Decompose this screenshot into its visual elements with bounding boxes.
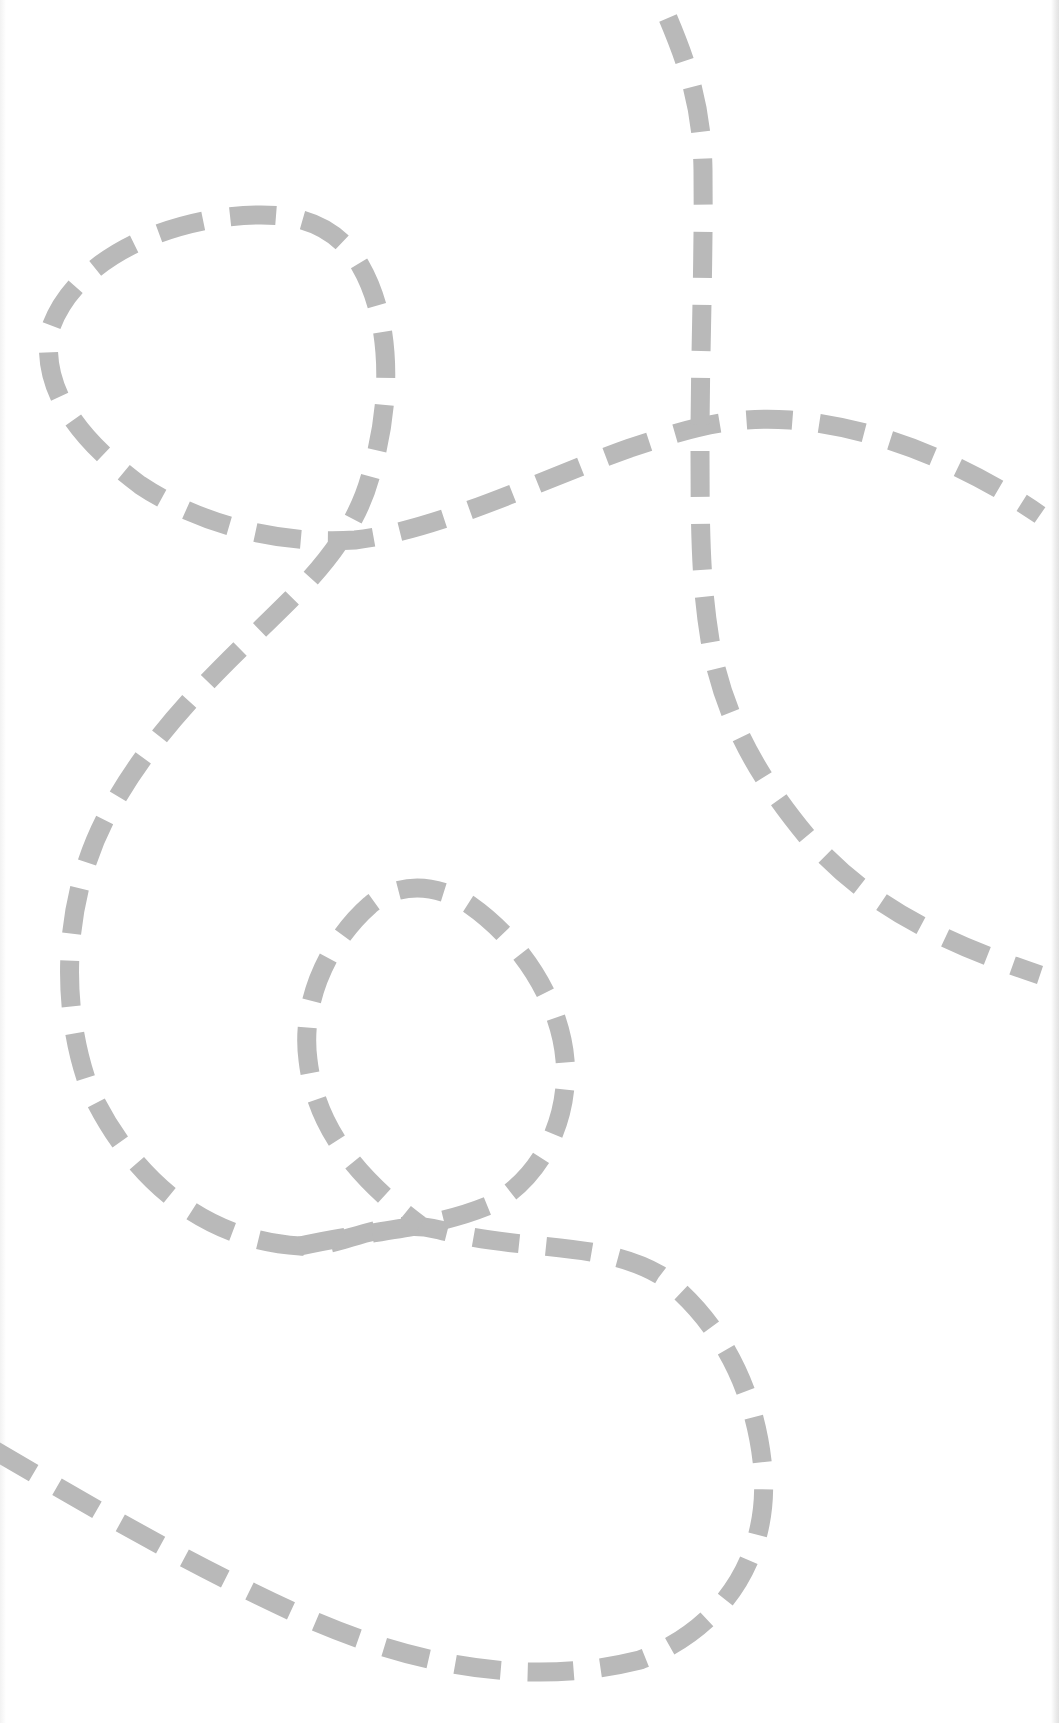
vertical-curve-path xyxy=(668,18,1040,975)
tracing-lines-canvas xyxy=(0,0,1059,1723)
worksheet-page xyxy=(0,0,1059,1723)
lower-small-loop-path xyxy=(300,888,566,1246)
winding-loop-path xyxy=(0,215,1040,1672)
